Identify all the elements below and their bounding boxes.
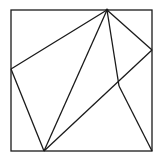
geometric-square-diagram xyxy=(0,0,163,161)
segment-top-to-interior xyxy=(107,10,119,86)
inner-segments xyxy=(11,10,152,151)
segment-top-to-right xyxy=(107,10,152,50)
segment-interior-to-bottom-right xyxy=(119,86,152,151)
segment-left-to-bottom xyxy=(11,69,44,151)
top-vertex-point xyxy=(106,9,109,12)
segment-top-to-left xyxy=(11,10,107,69)
segment-top-to-bottom xyxy=(44,10,107,151)
segment-bottom-to-right xyxy=(44,50,152,151)
